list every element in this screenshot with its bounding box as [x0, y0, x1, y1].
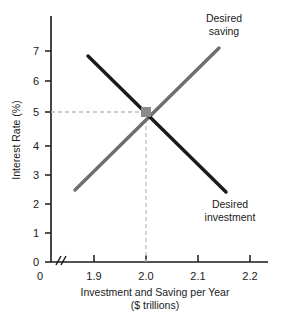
- y-tick-label-7: 7: [33, 45, 39, 57]
- series-label-desired-saving-line2: saving: [209, 25, 240, 37]
- chart-background: [0, 0, 287, 315]
- equilibrium-marker: [141, 107, 151, 117]
- y-tick-label-2: 2: [33, 198, 39, 210]
- y-tick-label-6: 6: [33, 75, 39, 87]
- x-tick-label-3: 2.1: [190, 270, 205, 282]
- y-tick-label-3: 3: [33, 169, 39, 181]
- x-tick-label-2: 2.0: [138, 270, 153, 282]
- y-tick-label-5: 5: [33, 106, 39, 118]
- investment-saving-chart: 0 1 2 3 4 5 6 7 0 1.9 2.0 2.1 2.2 Desire…: [0, 0, 287, 315]
- x-axis-title-line2: ($ trillions): [131, 299, 179, 311]
- series-label-desired-investment-line1: Desired: [212, 198, 248, 210]
- series-label-desired-investment-line2: investment: [205, 211, 256, 223]
- y-tick-label-1: 1: [33, 227, 39, 239]
- x-tick-label-4: 2.2: [242, 270, 257, 282]
- x-axis-title-line1: Investment and Saving per Year: [81, 286, 230, 298]
- y-tick-label-4: 4: [33, 140, 39, 152]
- series-label-desired-saving-line1: Desired: [206, 12, 242, 24]
- x-tick-label-0: 0: [37, 270, 43, 282]
- x-tick-label-1: 1.9: [86, 270, 101, 282]
- chart-figure: 0 1 2 3 4 5 6 7 0 1.9 2.0 2.1 2.2 Desire…: [0, 0, 287, 315]
- y-axis-title: Interest Rate (%): [10, 100, 22, 179]
- y-tick-label-0: 0: [33, 256, 39, 268]
